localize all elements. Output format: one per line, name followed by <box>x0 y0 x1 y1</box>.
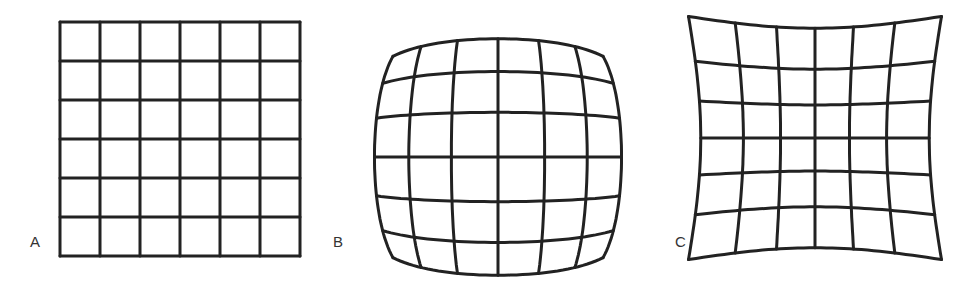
panel-label-c: C <box>675 233 686 250</box>
pincushion-grid-c <box>689 17 942 260</box>
distortion-figure <box>0 0 964 302</box>
panel-label-a: A <box>30 233 40 250</box>
barrel-grid-b <box>375 39 622 276</box>
panel-label-b: B <box>333 233 343 250</box>
regular-grid-a <box>60 22 300 256</box>
